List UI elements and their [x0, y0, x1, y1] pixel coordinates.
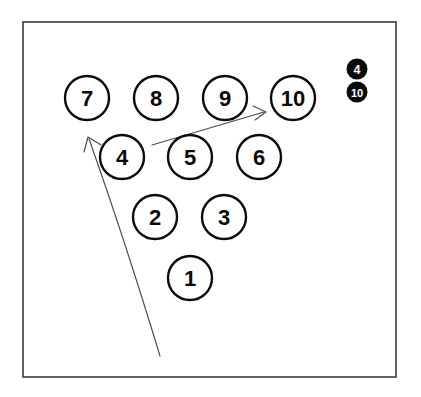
- pin-4-label: 4: [116, 145, 129, 170]
- pins-group: 78910456231: [65, 76, 315, 300]
- pin-4[interactable]: 4: [100, 135, 144, 179]
- legend-4-label: 4: [354, 63, 361, 77]
- pin-9[interactable]: 9: [203, 76, 247, 120]
- diagram-canvas: 78910456231 410: [0, 0, 421, 397]
- pin-8[interactable]: 8: [134, 76, 178, 120]
- bowling-pin-diagram: 78910456231 410: [0, 0, 421, 397]
- pin-6-label: 6: [253, 145, 265, 170]
- pin-6[interactable]: 6: [237, 135, 281, 179]
- pin-2[interactable]: 2: [133, 195, 177, 239]
- pin-5[interactable]: 5: [168, 135, 212, 179]
- pin-7[interactable]: 7: [65, 76, 109, 120]
- legend-10-label: 10: [351, 87, 363, 99]
- pin-legend: 410: [347, 59, 368, 103]
- pin-3[interactable]: 3: [202, 195, 246, 239]
- pin-5-label: 5: [184, 145, 196, 170]
- pin-8-label: 8: [150, 86, 162, 111]
- legend-10: 10: [347, 82, 368, 103]
- pin-7-label: 7: [81, 86, 93, 111]
- legend-4: 4: [347, 59, 368, 80]
- pin-10-label: 10: [281, 86, 305, 111]
- pin-10[interactable]: 10: [271, 76, 315, 120]
- pin-9-label: 9: [219, 86, 231, 111]
- pin-1[interactable]: 1: [168, 256, 212, 300]
- pin-2-label: 2: [149, 205, 161, 230]
- pin-1-label: 1: [184, 266, 196, 291]
- pin-3-label: 3: [218, 205, 230, 230]
